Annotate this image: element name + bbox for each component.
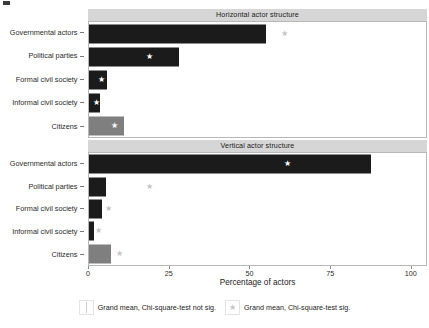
bar-rows-vertical: ★★★★★	[89, 153, 426, 265]
y-axis-tick-label: Informal civil society	[0, 91, 84, 114]
legend: Grand mean, Chi-square-test not sig. ★ G…	[0, 300, 429, 315]
x-axis-tick-label: 75	[326, 270, 334, 277]
plot-area-vertical: ★★★★★	[88, 152, 427, 266]
image-artifact	[3, 1, 10, 5]
plot-area-horizontal: ★★★★★	[88, 21, 427, 138]
bar-formal-civil-society	[89, 199, 102, 218]
grand-mean-marker: ★	[93, 99, 100, 107]
bar-row: ★	[89, 175, 426, 197]
grand-mean-marker: ★	[95, 227, 102, 235]
y-axis-tick-label: Formal civil society	[0, 198, 84, 221]
bar-row: ★	[89, 68, 426, 91]
x-axis-title: Percentage of actors	[88, 279, 427, 287]
grand-mean-marker: ★	[98, 76, 105, 84]
legend-label-significant: Grand mean, Chi-square-test sig.	[244, 304, 350, 311]
panel-horizontal-actor-structure: Horizontal actor structure ★★★★★	[88, 9, 427, 138]
bar-political-parties	[89, 177, 106, 196]
bar-governmental-actors	[89, 24, 266, 43]
grand-mean-marker: ★	[111, 122, 118, 130]
legend-key-star-icon: ★	[225, 300, 240, 315]
bar-citizens	[89, 244, 111, 263]
y-axis-tick-label: Governmental actors	[0, 152, 84, 175]
panel-title-horizontal: Horizontal actor structure	[216, 11, 299, 18]
grand-mean-marker: ★	[146, 183, 153, 191]
bar-row: ★	[89, 198, 426, 220]
x-axis-tick-label: 50	[245, 270, 253, 277]
chart-root: Horizontal actor structure ★★★★★ Governm…	[0, 0, 429, 328]
y-axis-tick-label: Citizens	[0, 115, 84, 138]
bar-row: ★	[89, 153, 426, 175]
y-axis-tick-label: Governmental actors	[0, 21, 84, 44]
x-axis-tick-label: 100	[405, 270, 417, 277]
legend-key-box-line-icon	[79, 300, 94, 315]
bar-row: ★	[89, 243, 426, 265]
y-axis-labels-horizontal: Governmental actorsPolitical partiesForm…	[0, 21, 84, 138]
legend-label-not-significant: Grand mean, Chi-square-test not sig.	[98, 304, 216, 311]
y-axis-labels-vertical: Governmental actorsPolitical partiesForm…	[0, 152, 84, 266]
bar-governmental-actors	[89, 155, 371, 174]
x-axis-tick-label: 25	[165, 270, 173, 277]
x-axis-tick-label: 0	[86, 270, 90, 277]
panel-strip-vertical: Vertical actor structure	[88, 140, 427, 152]
bar-row: ★	[89, 220, 426, 242]
panel-strip-horizontal: Horizontal actor structure	[88, 9, 427, 21]
panel-title-vertical: Vertical actor structure	[221, 142, 295, 149]
star-glyph: ★	[229, 304, 236, 312]
legend-item-significant: ★ Grand mean, Chi-square-test sig.	[225, 300, 350, 315]
grand-mean-marker: ★	[284, 160, 291, 168]
grand-mean-marker: ★	[146, 53, 153, 61]
bar-row: ★	[89, 45, 426, 68]
legend-item-not-significant: Grand mean, Chi-square-test not sig.	[79, 300, 216, 315]
bar-rows-horizontal: ★★★★★	[89, 22, 426, 137]
bar-row: ★	[89, 91, 426, 114]
bar-political-parties	[89, 47, 179, 66]
bar-row: ★	[89, 22, 426, 45]
y-axis-tick-label: Political parties	[0, 44, 84, 67]
grand-mean-marker: ★	[105, 205, 112, 213]
bar-informal-civil-society	[89, 222, 94, 241]
y-axis-tick-label: Political parties	[0, 175, 84, 198]
bar-row: ★	[89, 114, 426, 137]
y-axis-tick-label: Formal civil society	[0, 68, 84, 91]
panel-vertical-actor-structure: Vertical actor structure ★★★★★	[88, 140, 427, 266]
bar-citizens	[89, 116, 124, 135]
y-axis-tick-label: Informal civil society	[0, 220, 84, 243]
grand-mean-marker: ★	[281, 30, 288, 38]
y-axis-tick-label: Citizens	[0, 243, 84, 266]
grand-mean-marker: ★	[116, 250, 123, 258]
